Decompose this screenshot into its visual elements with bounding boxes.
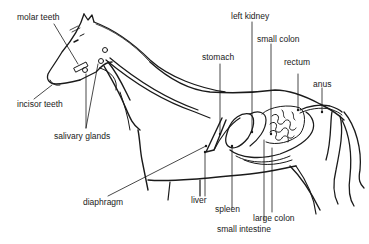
label-incisor-teeth: incisor teeth — [17, 99, 63, 109]
horse-head — [47, 14, 225, 92]
label-left-kidney: left kidney — [231, 11, 269, 21]
horse-back-line — [150, 62, 344, 120]
horse-tail — [326, 112, 364, 206]
label-spleen: spleen — [215, 204, 240, 214]
label-small-intestine: small intestine — [217, 224, 271, 234]
label-rectum: rectum — [284, 57, 310, 67]
belly-line — [148, 166, 296, 181]
leader-lines — [34, 22, 322, 220]
label-small-colon: small colon — [257, 34, 300, 44]
intestines — [262, 106, 305, 144]
label-anus: anus — [313, 79, 331, 89]
label-liver: liver — [191, 195, 207, 205]
horse-outline-drawing — [0, 0, 369, 244]
label-stomach: stomach — [202, 52, 234, 62]
label-salivary-glands: salivary glands — [54, 131, 110, 141]
label-diaphragm: diaphragm — [83, 197, 123, 207]
label-large-colon: large colon — [253, 213, 295, 223]
horse-digestive-diagram: molar teeth incisor teeth salivary gland… — [0, 0, 369, 244]
label-molar-teeth: molar teeth — [17, 12, 60, 22]
